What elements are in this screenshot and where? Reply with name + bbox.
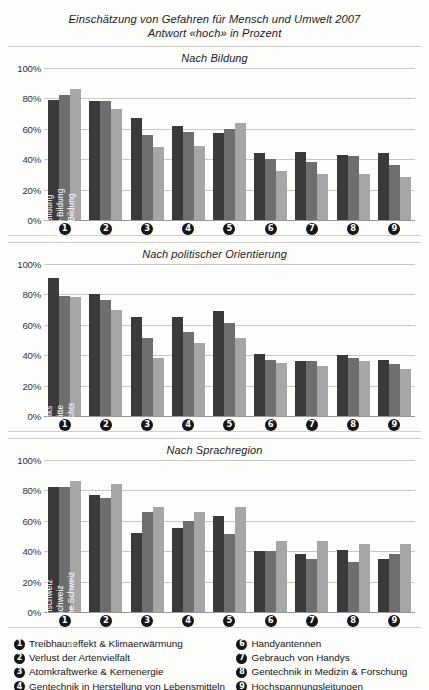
footnote-label: Treibhauseffekt & Klimaerwärmung: [29, 637, 183, 651]
footnote-number-badge: 8: [236, 667, 247, 678]
footnote-item: 9Hochspannungsleitungen: [236, 680, 429, 690]
footnote-item: 1Treibhauseffekt & Klimaerwärmung: [14, 637, 230, 651]
bar-group: [209, 460, 250, 612]
y-tick-label: 40%: [22, 350, 41, 361]
category-number-badge: 1: [59, 419, 71, 431]
bar-group: [126, 68, 167, 220]
bar-group: [374, 264, 415, 416]
bar: [306, 559, 317, 612]
bar: [295, 152, 306, 220]
footnote-number-badge: 7: [236, 653, 247, 664]
bar: [337, 155, 348, 220]
bar: [111, 109, 122, 220]
y-tick-label: 0%: [28, 607, 41, 618]
x-axis: 123456789: [44, 220, 415, 237]
y-tick-label: 100%: [17, 259, 41, 270]
footnote-legend: 1Treibhauseffekt & Klimaerwärmung2Verlus…: [8, 631, 421, 690]
bar-group: [291, 460, 332, 612]
y-axis: 100%80%60%40%20%0%: [10, 460, 44, 612]
bar: [213, 516, 224, 612]
category-number-badge: 6: [265, 419, 277, 431]
bar-group: DeutschschweizWestschweizItalienische Sc…: [44, 460, 85, 612]
footnote-label: Hochspannungsleitungen: [251, 680, 362, 690]
bar: [378, 153, 389, 220]
footnote-column-right: 6Handyantennen7Gebrauch von Handys8Gente…: [236, 637, 429, 690]
chart-panel-3: Nach Sprachregion100%80%60%40%20%0%Deuts…: [8, 438, 421, 628]
bar: [317, 366, 328, 416]
category-number-badge: 1: [59, 615, 71, 627]
x-axis: 123456789: [44, 612, 415, 629]
category-number-badge: 7: [306, 223, 318, 235]
y-tick-label: 80%: [22, 289, 41, 300]
bar: [317, 541, 328, 612]
x-tick: 3: [126, 615, 167, 627]
bar: [265, 159, 276, 220]
bar-group: [85, 68, 126, 220]
bar: links: [48, 278, 59, 416]
bar: [265, 551, 276, 612]
x-tick: 9: [374, 615, 415, 627]
bar: [183, 521, 194, 612]
x-tick: 1: [44, 419, 85, 431]
bar-group: tiefe Bildungmittlere Bildunghohe Bildun…: [44, 68, 85, 220]
bar: [111, 484, 122, 612]
x-tick: 2: [85, 223, 126, 235]
plot-area: 100%80%60%40%20%0%tiefe Bildungmittlere …: [10, 68, 415, 220]
category-number-badge: 1: [59, 223, 71, 235]
bar: [317, 174, 328, 220]
footnote-label: Gentechnik in Herstellung von Lebensmitt…: [29, 680, 225, 690]
y-tick-label: 0%: [28, 411, 41, 422]
bar: [389, 554, 400, 612]
bar: [131, 533, 142, 612]
footnote-label: Handyantennen: [251, 637, 321, 651]
bar-groups: linksmitterechts: [44, 264, 415, 416]
bar: [389, 364, 400, 416]
category-number-badge: 3: [141, 419, 153, 431]
footnote-label: Gebrauch von Handys: [251, 651, 349, 665]
category-number-badge: 9: [388, 615, 400, 627]
footnote-label: Gentechnik in Medizin & Forschung: [251, 665, 407, 679]
footnote-number-badge: 6: [236, 639, 247, 650]
panel-title: Nach Bildung: [8, 50, 421, 66]
bar: [100, 498, 111, 612]
bar: [194, 512, 205, 612]
y-tick-label: 0%: [28, 215, 41, 226]
footnote-column-left: 1Treibhauseffekt & Klimaerwärmung2Verlus…: [14, 637, 230, 690]
plot-area: 100%80%60%40%20%0%linksmitterechts: [10, 264, 415, 416]
bar-group: [168, 264, 209, 416]
footnote-number-badge: 9: [236, 681, 247, 690]
bar: [100, 101, 111, 220]
bar: [337, 355, 348, 416]
bar-group: [291, 264, 332, 416]
bar: [213, 133, 224, 220]
chart-page: Einschätzung von Gefahren für Mensch und…: [0, 0, 429, 690]
bar: [89, 101, 100, 220]
y-tick-label: 80%: [22, 93, 41, 104]
bar: mittlere Bildung: [59, 95, 70, 220]
bar: [389, 165, 400, 220]
y-axis: 100%80%60%40%20%0%: [10, 68, 44, 220]
bar-group: [209, 68, 250, 220]
bar: [153, 147, 164, 220]
bar: [172, 528, 183, 612]
bar: [378, 559, 389, 612]
category-number-badge: 8: [347, 615, 359, 627]
bar: [400, 369, 411, 416]
footnote-number-badge: 2: [14, 653, 25, 664]
y-tick-label: 20%: [22, 184, 41, 195]
x-tick: 6: [250, 223, 291, 235]
bar: Italienische Schweiz: [70, 481, 81, 612]
bar-group: [291, 68, 332, 220]
bar-group: [250, 264, 291, 416]
footnote-label: Verlust der Artenvielfalt: [29, 651, 130, 665]
page-header: Einschätzung von Gefahren für Mensch und…: [0, 0, 429, 46]
bar: [142, 338, 153, 416]
bar-group: [333, 460, 374, 612]
bar: [89, 495, 100, 612]
category-number-badge: 2: [100, 419, 112, 431]
bar: [254, 153, 265, 220]
x-tick: 8: [333, 223, 374, 235]
bar: [131, 118, 142, 220]
bar: [153, 358, 164, 416]
footnote-number-badge: 4: [14, 681, 25, 690]
